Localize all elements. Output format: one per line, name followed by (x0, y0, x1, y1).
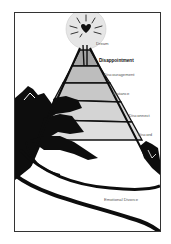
mountain-illustration (0, 0, 171, 244)
layer-label-distance: Distance (113, 92, 129, 96)
layer-label-disconnect: Disconnect (129, 114, 150, 118)
layer-label-disappointment: Disappointment (99, 59, 134, 64)
layer-label-dream: Dream (96, 42, 109, 46)
layer-label-discouragement: Discouragement (104, 73, 135, 77)
layer-label-discord: Discord (138, 133, 152, 137)
layer-label-emotional-divorce: Emotional Divorce (104, 198, 138, 202)
